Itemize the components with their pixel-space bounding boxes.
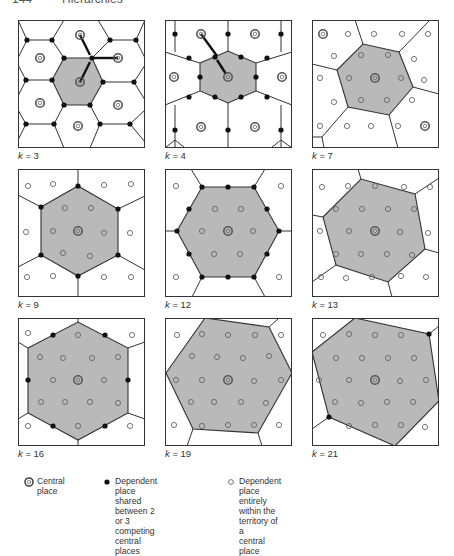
dependent-place-icon [23,229,28,234]
hexagon-diagram-k13 [312,169,439,297]
shared-place-icon [186,251,191,256]
shared-place-icon [199,274,204,279]
shared-place-icon [174,228,179,233]
shared-place-icon [75,183,80,188]
dependent-place-icon [425,230,430,235]
shared-place-icon [238,54,243,59]
shared-place-icon [38,204,43,209]
dependent-place-icon [425,31,430,36]
shared-place-icon [115,206,120,211]
dependent-place-icon [128,181,133,186]
dependent-place-icon [411,56,416,61]
dependent-place-icon [50,181,55,186]
shared-place-icon [127,121,132,126]
dependent-place-icon [101,274,106,279]
shared-place-icon [38,252,43,257]
dependent-place-icon [421,77,426,82]
dependent-place-icon [409,97,414,102]
dependent-place-icon [101,182,106,187]
shared-place-icon [225,184,230,189]
k-label-k13: k = 13 [312,299,338,310]
hexagon-diagram-k12 [165,169,292,297]
shared-place-icon [186,55,191,60]
shared-place-icon [51,121,56,126]
shared-place-icon [225,127,230,132]
shared-place-icon [23,121,28,126]
hexagon-diagram-k9 [18,169,145,297]
dependent-place-icon [343,275,348,280]
dependent-place-icon [25,423,30,428]
shared-place-icon [426,331,431,336]
shared-place-icon [197,74,202,79]
dependent-place-icon [331,99,336,104]
shared-place-icon [125,377,130,382]
dependent-place-icon [171,422,176,427]
hexagon-diagram-k19 [165,318,292,446]
panel-k16 [18,318,145,446]
shared-place-icon [133,37,138,42]
shared-place-icon [25,377,30,382]
shared-place-icon [50,332,55,337]
shared-place-icon [264,206,269,211]
running-head: Hierarchies [62,0,123,6]
shared-place-icon [100,79,105,84]
panel-k7 [312,20,439,148]
dependent-place-icon [398,273,403,278]
panel-k19 [165,318,292,446]
shared-place-icon [278,31,283,36]
dependent-place-icon [276,422,281,427]
dependent-place-icon [401,184,406,189]
k-label-k21: k = 21 [312,448,338,459]
dependent-place-icon [317,75,322,80]
dependent-place-icon [317,228,322,233]
shared-place-icon [238,94,243,99]
dependent-place-icon [344,123,349,128]
panel-k4 [165,20,292,148]
shared-place-icon [264,55,269,60]
shared-place-icon [186,206,191,211]
dependent-place-icon [319,184,324,189]
dependent-place-icon [127,423,132,428]
dependent-place-icon [345,183,350,188]
open-dot-icon [226,477,236,487]
shared-place-icon [107,37,112,42]
shared-place-icon [225,274,230,279]
shared-place-icon [199,184,204,189]
k-label-k19: k = 19 [165,448,191,459]
shared-place-icon [89,55,94,60]
hexagon-diagram-k4 [165,20,292,148]
dependent-place-icon [331,53,336,58]
shared-place-icon [23,77,28,82]
dependent-place-icon [25,330,30,335]
shared-place-icon [115,252,120,257]
dependent-place-icon [173,183,178,188]
shared-place-icon [172,31,177,36]
dependent-place-icon [129,332,134,337]
shared-place-icon [264,94,269,99]
shared-place-icon [131,79,136,84]
shared-place-icon [75,273,80,278]
shared-place-icon [326,414,331,419]
panel-k21 [312,318,439,446]
shared-place-icon [172,127,177,132]
legend-text: Dependent place entirely within the terr… [239,476,281,556]
shared-place-icon [61,102,66,107]
dependent-place-icon [127,230,132,235]
shared-place-icon [49,77,54,82]
hexagon-diagram-k3 [18,20,145,148]
panel-k3 [18,20,145,148]
legend-text: Central place [37,476,65,496]
shared-place-icon [278,127,283,132]
shared-place-icon [102,332,107,337]
shared-place-icon [97,121,102,126]
shared-place-icon [49,37,54,42]
shared-place-icon [225,31,230,36]
shared-place-icon [24,37,29,42]
k-label-k9: k = 9 [18,299,39,310]
dependent-place-icon [368,123,373,128]
shared-place-icon [186,94,191,99]
dependent-place-icon [278,183,283,188]
dependent-place-icon [423,274,428,279]
dependent-place-icon [317,123,322,128]
panel-k13 [312,169,439,297]
